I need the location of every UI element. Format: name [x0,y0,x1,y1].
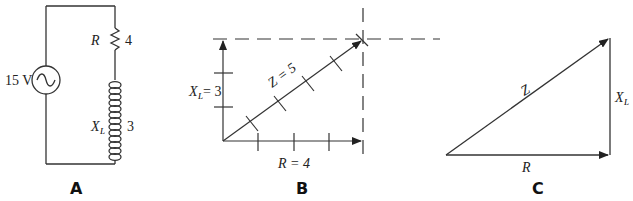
panel-c-caption: C [532,179,544,198]
inductor-symbol [109,82,121,161]
sine-wave-icon [37,74,55,86]
panel-b-caption: B [296,179,308,198]
panel-b-phasor [213,8,440,155]
xl-subscript-c: L [623,97,629,107]
z-label-b: Z = 5 [265,60,299,90]
inductor-subscript: L [99,126,105,136]
resistor-symbol [111,28,119,50]
source-voltage-label: 15 V [5,73,32,88]
panel-a-circuit [32,6,121,164]
impedance-diagrams: 15 V R 4 X L 3 A X L = 3 R = 4 Z = 5 B Z [0,0,633,201]
r-label-b: R = 4 [277,156,310,171]
z-label-c: Z [518,82,532,99]
panel-a-caption: A [70,179,83,198]
xl-label-b: X [188,84,198,99]
inductor-value-label: 3 [127,119,134,134]
xl-value-b: = 3 [203,84,221,99]
xl-label-c: X [614,90,624,105]
inductor-symbol-label: X [90,119,100,134]
resistor-value-label: 4 [125,33,132,48]
resistor-symbol-label: R [90,33,100,48]
r-label-c: R [521,160,531,175]
